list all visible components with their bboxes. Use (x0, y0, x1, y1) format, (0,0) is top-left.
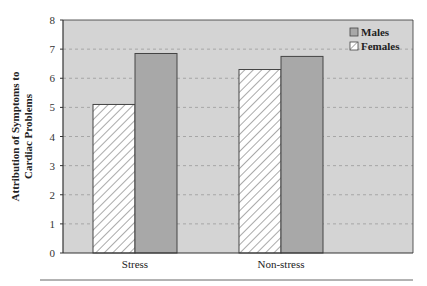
y-tick-label: 2 (50, 189, 56, 201)
y-tick-label: 3 (50, 160, 56, 172)
legend-swatch-females (350, 42, 358, 50)
x-axis-categories: StressNon-stress (122, 258, 305, 270)
bar-chart: 012345678 StressNon-stress Attribution o… (0, 0, 427, 286)
y-tick-label: 4 (50, 131, 56, 143)
y-axis-title-line1: Attribution of Symptoms to (9, 71, 21, 201)
bar-females-non-stress (239, 70, 281, 253)
y-tick-label: 1 (50, 218, 56, 230)
bar-males-stress (135, 53, 177, 253)
y-tick-label: 5 (50, 101, 56, 113)
x-category-label: Non-stress (257, 258, 304, 270)
y-axis-label: Attribution of Symptoms toCardiac Proble… (9, 71, 34, 201)
legend-label-females: Females (361, 40, 400, 52)
y-axis-ticks: 012345678 (50, 14, 64, 259)
bar-females-stress (93, 104, 135, 253)
legend-swatch-males (350, 28, 358, 36)
y-tick-label: 6 (50, 72, 56, 84)
y-tick-label: 0 (50, 247, 56, 259)
y-tick-label: 8 (50, 14, 56, 26)
legend-label-males: Males (361, 26, 390, 38)
x-category-label: Stress (122, 258, 148, 270)
y-tick-label: 7 (50, 43, 56, 55)
y-axis-title-line2: Cardiac Problems (22, 93, 34, 179)
bar-males-non-stress (281, 56, 323, 253)
